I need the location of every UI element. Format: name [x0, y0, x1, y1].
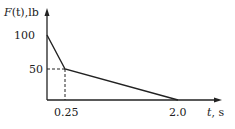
y-axis-label: F(t),lb: [3, 6, 39, 19]
x-tick-025: 0.25: [54, 106, 79, 119]
x-axis-label: t, s: [207, 106, 224, 119]
y-tick-100: 100: [14, 29, 35, 42]
x-axis-arrow-icon: [214, 98, 222, 103]
force-curve: [47, 35, 178, 100]
y-tick-50: 50: [29, 63, 43, 76]
y-axis-arrow-icon: [45, 8, 50, 16]
force-time-chart: F(t),lb 100 50 0.25 2.0 t, s: [0, 0, 235, 129]
x-tick-20: 2.0: [169, 106, 187, 119]
